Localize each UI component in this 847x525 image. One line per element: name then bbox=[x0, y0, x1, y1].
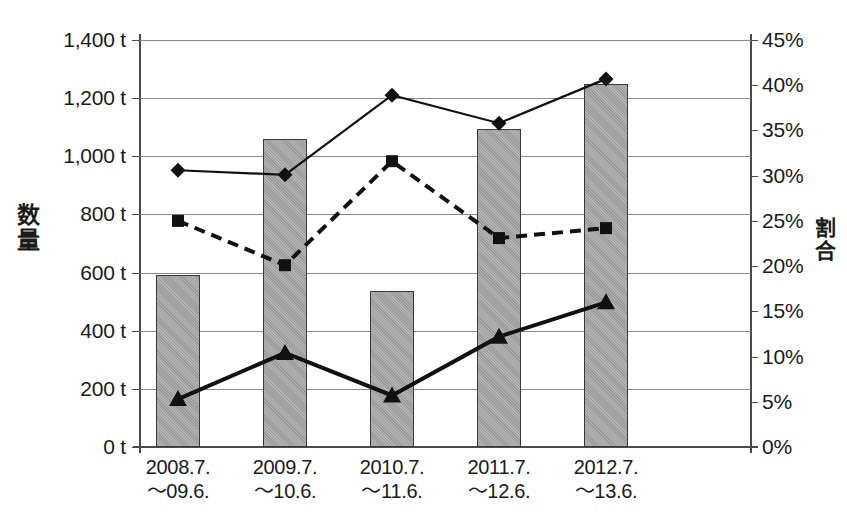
triangle-marker bbox=[276, 344, 294, 360]
diamond-marker bbox=[492, 116, 507, 131]
chart-root: 0 t200 t400 t600 t800 t1,000 t1,200 t1,4… bbox=[0, 0, 847, 525]
line-square bbox=[178, 161, 606, 265]
diamond-marker bbox=[599, 71, 614, 86]
square-marker bbox=[279, 259, 291, 271]
square-marker bbox=[493, 232, 505, 244]
triangle-marker bbox=[597, 293, 615, 309]
diamond-marker bbox=[171, 163, 186, 178]
square-marker bbox=[386, 155, 398, 167]
square-marker bbox=[600, 222, 612, 234]
line-series-overlay bbox=[0, 0, 847, 525]
square-marker bbox=[172, 215, 184, 227]
line-triangle bbox=[178, 302, 606, 399]
